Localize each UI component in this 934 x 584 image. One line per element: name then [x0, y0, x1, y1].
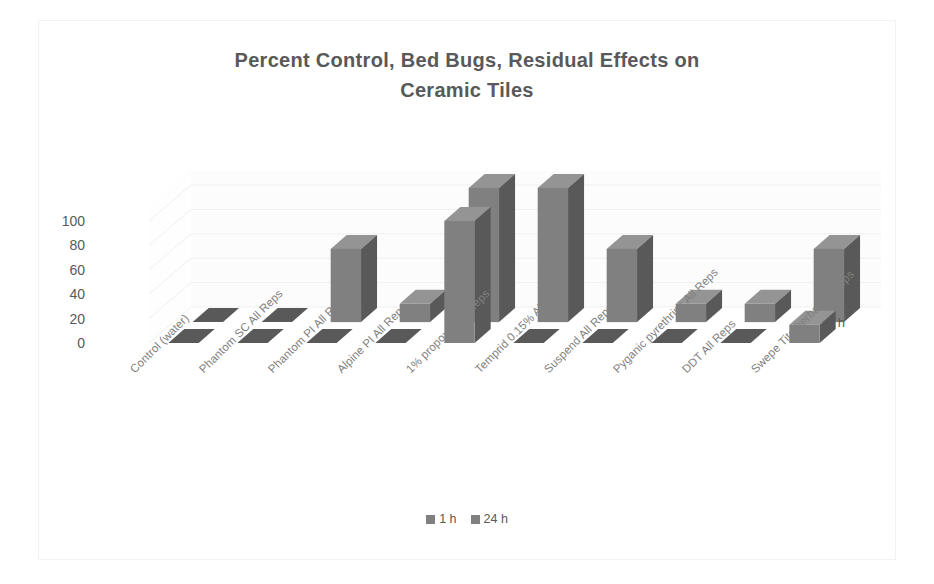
y-axis-tick-label: 20	[39, 312, 85, 326]
bar	[538, 174, 584, 322]
bar-front-face	[444, 221, 474, 343]
bar-front-face	[676, 304, 706, 322]
legend-item[interactable]: 1 h	[426, 513, 456, 525]
legend-label: 1 h	[439, 513, 456, 525]
bar	[444, 207, 490, 343]
y-axis-tick-label: 0	[39, 336, 85, 350]
y-axis-tick-label: 60	[39, 263, 85, 277]
bar-front-face	[789, 325, 819, 343]
chart-container: Percent Control, Bed Bugs, Residual Effe…	[38, 20, 896, 560]
bar-front-face	[607, 249, 637, 322]
y-axis-tick-label: 40	[39, 287, 85, 301]
plot-svg	[39, 21, 897, 561]
bar-side-face	[844, 235, 860, 322]
bar-front-face	[400, 304, 430, 322]
legend-label: 24 h	[484, 513, 508, 525]
plot-area	[39, 21, 897, 561]
bar-side-face	[637, 235, 653, 322]
legend-swatch-icon	[426, 515, 435, 524]
bar	[607, 235, 653, 322]
legend-swatch-icon	[471, 515, 480, 524]
bar-side-face	[361, 235, 377, 322]
bar-side-face	[475, 207, 491, 343]
bar-front-face	[745, 304, 775, 322]
bar	[331, 235, 377, 322]
y-axis-tick-label: 80	[39, 238, 85, 252]
depth-axis-label: 1 h	[827, 315, 845, 330]
back-wall	[191, 171, 881, 307]
bar-front-face	[331, 249, 361, 322]
bar-side-face	[499, 174, 515, 322]
bar	[814, 235, 860, 322]
legend-item[interactable]: 24 h	[471, 513, 508, 525]
y-axis-tick-label: 100	[39, 214, 85, 228]
bar-front-face	[538, 188, 568, 322]
y-axis: 100806040200	[29, 21, 85, 561]
bar-side-face	[568, 174, 584, 322]
chart-legend: 1 h24 h	[39, 513, 895, 525]
